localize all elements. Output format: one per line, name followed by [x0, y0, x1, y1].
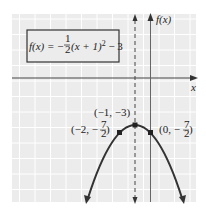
right-close-paren: )	[189, 123, 193, 136]
left-close-paren: )	[106, 123, 110, 136]
left-point-label: (−2, −	[71, 123, 98, 136]
vertex-label: (−1, −3)	[94, 106, 131, 119]
right-point-label: (0, −	[159, 123, 180, 136]
frac-den: 2	[65, 43, 71, 55]
right-point	[148, 130, 153, 135]
left-point	[117, 130, 122, 135]
vertex-point	[133, 123, 138, 128]
equation-text: f(x) = −	[29, 40, 63, 53]
y-axis-label: f(x)	[156, 13, 172, 26]
graph: f(x) = − 1 2 (x + 1)2 − 3 f(x) x (−1, −3…	[0, 0, 206, 212]
equation-rest: (x + 1)2 − 3	[71, 39, 123, 53]
x-axis-label: x	[190, 81, 196, 93]
